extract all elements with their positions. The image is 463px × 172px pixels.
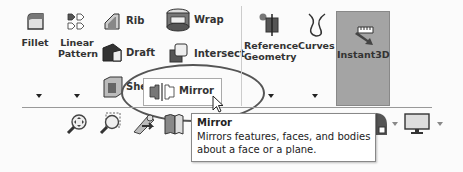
curves-dropdown-caret[interactable] xyxy=(312,94,318,98)
rib-icon xyxy=(102,11,122,31)
group-separator xyxy=(241,6,242,106)
fillet-button[interactable]: Fillet xyxy=(20,10,50,60)
reference-geometry-button[interactable]: Reference Geometry xyxy=(244,10,294,62)
intersect-button[interactable]: Intersect xyxy=(168,42,238,66)
linear-pattern-label-2: Pattern xyxy=(58,48,96,59)
ribbon-bottom-border xyxy=(22,107,432,108)
rib-button[interactable]: Rib xyxy=(100,10,142,32)
fillet-icon xyxy=(26,12,46,32)
tooltip-description-line-2: about a face or a plane. xyxy=(197,143,375,156)
monitor-dropdown-caret[interactable] xyxy=(437,122,443,126)
reference-geometry-icon xyxy=(259,12,281,36)
wrap-icon xyxy=(165,8,191,32)
tooltip-description-line-1: Mirrors features, faces, and bodies xyxy=(197,130,375,143)
tooltip-title: Mirror xyxy=(197,117,232,128)
linear-pattern-dropdown-caret[interactable] xyxy=(74,94,80,98)
fillet-dropdown-caret[interactable] xyxy=(36,94,42,98)
instant3d-label: Instant3D xyxy=(337,49,389,60)
mouse-cursor-icon xyxy=(212,95,224,113)
reference-geometry-label-1: Reference xyxy=(244,40,296,51)
reference-geometry-label-2: Geometry xyxy=(244,51,296,62)
curves-label: Curves xyxy=(298,40,334,51)
linear-pattern-label-1: Linear xyxy=(58,37,96,48)
curves-icon xyxy=(306,12,328,38)
zoom-to-fit-icon[interactable] xyxy=(66,113,88,135)
display-style-dropdown-caret[interactable] xyxy=(392,122,398,126)
draft-icon xyxy=(101,42,123,64)
section-view-icon[interactable] xyxy=(163,112,185,136)
fillet-label: Fillet xyxy=(20,37,50,48)
draft-button[interactable]: Draft xyxy=(100,42,148,64)
instant3d-icon xyxy=(353,24,375,46)
curves-button[interactable]: Curves xyxy=(298,10,334,62)
reference-geometry-dropdown-caret[interactable] xyxy=(268,94,274,98)
linear-pattern-icon xyxy=(66,12,86,32)
tooltip-description: Mirrors features, faces, and bodies abou… xyxy=(197,130,375,156)
rib-label: Rib xyxy=(126,15,144,26)
zoom-to-area-icon[interactable] xyxy=(98,112,122,136)
monitor-icon[interactable] xyxy=(404,113,430,135)
linear-pattern-button[interactable]: Linear Pattern xyxy=(58,10,96,60)
instant3d-toggle[interactable]: Instant3D xyxy=(336,11,390,106)
draft-label: Draft xyxy=(126,47,155,58)
intersect-label: Intersect xyxy=(194,48,245,59)
wrap-button[interactable]: Wrap xyxy=(165,8,225,32)
mirror-tooltip: Mirror Mirrors features, faces, and bodi… xyxy=(191,113,376,162)
previous-view-icon[interactable] xyxy=(130,112,156,136)
intersect-icon xyxy=(168,42,190,64)
wrap-label: Wrap xyxy=(194,14,224,25)
display-style-icon[interactable] xyxy=(375,113,389,135)
